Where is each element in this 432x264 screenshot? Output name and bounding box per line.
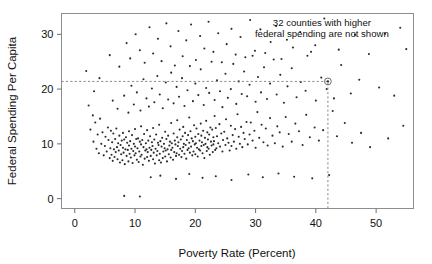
data-point: [208, 134, 210, 136]
data-point: [157, 144, 159, 146]
plot-canvas: 010203040500102030 32 counties with high…: [0, 0, 432, 264]
data-point: [200, 68, 202, 70]
data-point: [126, 42, 128, 44]
data-point: [194, 83, 196, 85]
data-point: [212, 136, 214, 138]
data-point: [153, 152, 155, 154]
data-point: [294, 123, 296, 125]
data-point: [120, 144, 122, 146]
data-point: [276, 125, 278, 127]
data-point: [104, 136, 106, 138]
data-point: [178, 154, 180, 156]
data-point: [220, 132, 222, 134]
data-point: [153, 138, 155, 140]
data-point: [181, 150, 183, 152]
data-point: [192, 150, 194, 152]
data-point: [333, 97, 335, 99]
data-point: [229, 149, 231, 151]
data-point: [326, 88, 328, 90]
data-point: [130, 148, 132, 150]
data-point: [139, 195, 141, 197]
data-point: [92, 141, 94, 143]
data-point: [156, 150, 158, 152]
data-point: [186, 89, 188, 91]
data-point: [203, 157, 205, 159]
data-point: [218, 123, 220, 125]
data-point: [107, 139, 109, 141]
data-point: [207, 138, 209, 140]
data-point: [211, 61, 213, 63]
data-point: [399, 27, 401, 29]
data-point: [245, 121, 247, 123]
data-point: [296, 96, 298, 98]
data-point: [171, 147, 173, 149]
data-point: [314, 44, 316, 46]
data-point: [156, 75, 158, 77]
data-point: [126, 155, 128, 157]
data-point: [378, 86, 380, 88]
data-point: [128, 130, 130, 132]
data-point: [189, 130, 191, 132]
data-point: [187, 134, 189, 136]
data-point: [179, 129, 181, 131]
data-point: [305, 90, 307, 92]
data-point: [161, 137, 163, 139]
data-point: [214, 115, 216, 117]
data-point: [176, 86, 178, 88]
data-point: [190, 23, 192, 25]
data-point: [221, 150, 223, 152]
data-point: [267, 144, 269, 146]
data-point: [197, 155, 199, 157]
data-point: [115, 127, 117, 129]
data-point: [132, 162, 134, 164]
data-point: [273, 58, 275, 60]
data-point: [181, 77, 183, 79]
data-point: [213, 140, 215, 142]
data-point: [176, 136, 178, 138]
data-point: [123, 195, 125, 197]
data-point: [150, 149, 152, 151]
data-point: [277, 172, 279, 174]
data-point: [104, 145, 106, 147]
data-point: [165, 22, 167, 24]
data-point: [128, 144, 130, 146]
data-point: [227, 142, 229, 144]
data-point: [221, 61, 223, 63]
data-point: [210, 141, 212, 143]
data-point: [239, 36, 241, 38]
data-point: [89, 129, 91, 131]
x-tick-label: 40: [310, 217, 322, 229]
data-point: [164, 155, 166, 157]
data-point: [258, 137, 260, 139]
data-point: [113, 156, 115, 158]
data-point: [293, 176, 295, 178]
data-point: [174, 64, 176, 66]
data-point: [249, 19, 251, 21]
data-point: [240, 126, 242, 128]
data-point: [276, 94, 278, 96]
data-point: [225, 118, 227, 120]
data-point: [311, 177, 313, 179]
data-point: [239, 143, 241, 145]
data-point: [170, 149, 172, 151]
data-point: [194, 136, 196, 138]
data-point: [139, 109, 141, 111]
data-point: [112, 132, 114, 134]
data-point: [114, 138, 116, 140]
data-point: [190, 146, 192, 148]
data-point: [230, 179, 232, 181]
data-point: [157, 38, 159, 40]
data-point: [253, 130, 255, 132]
data-point: [115, 151, 117, 153]
axis-tick-labels-layer: 010203040500102030: [41, 28, 382, 228]
data-point: [127, 149, 129, 151]
data-point: [271, 135, 273, 137]
data-point: [263, 66, 265, 68]
data-point: [270, 41, 272, 43]
data-point: [211, 129, 213, 131]
data-point: [188, 147, 190, 149]
data-point: [188, 173, 190, 175]
data-point: [309, 136, 311, 138]
data-point: [145, 142, 147, 144]
excluded-counties-note-line: 32 counties with higher: [273, 17, 372, 28]
